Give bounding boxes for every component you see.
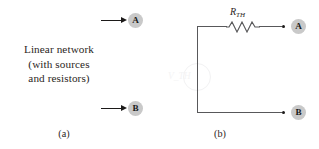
voltage-source-label: V_TH xyxy=(168,71,191,81)
caption-panel-b: (b) xyxy=(192,128,248,139)
circuit-wire-top-left xyxy=(197,26,227,27)
resistor-label: RTH xyxy=(230,6,245,19)
terminal-b-node-dot xyxy=(282,111,285,114)
terminal-a-label-panel-b: A xyxy=(295,21,302,31)
terminal-a-badge-panel-b: A xyxy=(291,19,306,34)
circuit-wire-bottom xyxy=(197,112,282,113)
voltage-source-stem xyxy=(197,63,198,91)
terminal-a-node-dot xyxy=(282,25,285,28)
circuit-wire-top-right xyxy=(259,26,282,27)
resistor-label-subscript: TH xyxy=(236,11,245,19)
figure-canvas: Linear network (with sources and resisto… xyxy=(0,0,319,149)
panel-b: V_TH RTH A B (b) xyxy=(0,0,319,149)
resistor-symbol xyxy=(226,19,260,35)
circuit-wire-left-upper xyxy=(197,26,198,64)
voltage-source-label-text: V_TH xyxy=(168,71,191,81)
circuit-wire-left-lower xyxy=(197,90,198,112)
terminal-b-label-panel-b: B xyxy=(295,107,301,117)
terminal-b-badge-panel-b: B xyxy=(291,105,306,120)
